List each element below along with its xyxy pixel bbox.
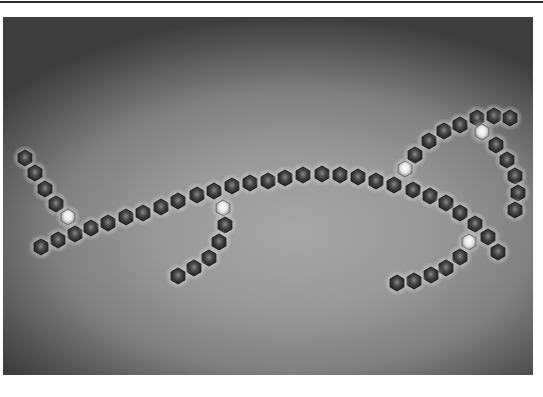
hexagonal-particle xyxy=(165,263,191,289)
micrograph-frame xyxy=(3,17,533,375)
hexagonal-particle xyxy=(28,234,54,260)
particle-layer xyxy=(3,17,533,375)
hexagonal-particle xyxy=(497,105,523,131)
top-rule xyxy=(0,1,543,3)
hexagonal-particle xyxy=(502,197,528,223)
hexagonal-particle xyxy=(384,270,410,296)
hexagonal-particle xyxy=(485,239,511,265)
